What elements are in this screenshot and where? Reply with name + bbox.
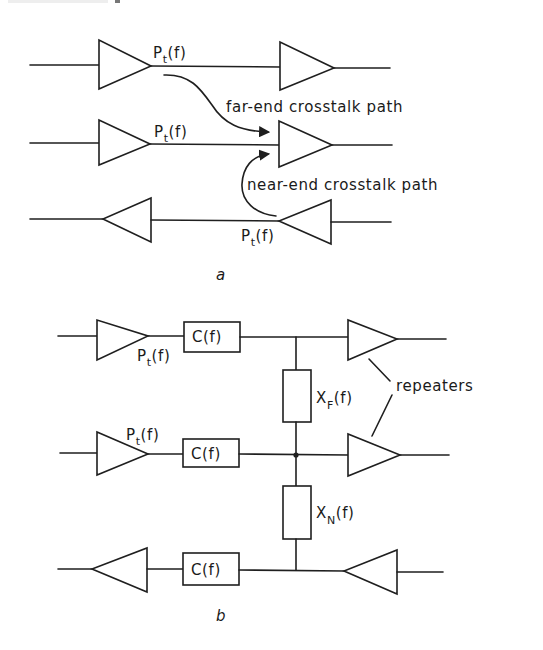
crosstalk-diagram: Pt(f) Pt(f) Pt(f) far-end c (0, 0, 543, 650)
amplifier-left-icon (279, 200, 331, 244)
panel-b-line-1: C(f) Pt(f) (58, 320, 446, 369)
repeaters-label: repeaters (396, 377, 474, 395)
far-end-coupling-label: XF(f) (316, 389, 353, 412)
repeater-right-icon (348, 434, 400, 476)
far-end-coupling-impedance (283, 370, 311, 422)
amplifier-right-icon (99, 40, 151, 89)
panel-a: Pt(f) Pt(f) Pt(f) far-end c (30, 40, 438, 284)
junction-dot (293, 452, 298, 457)
repeaters-annotation: repeaters (369, 359, 474, 436)
signal-label-pt: Pt(f) (154, 123, 187, 145)
wire (151, 220, 279, 221)
signal-label-pt: Pt(f) (153, 44, 186, 66)
near-end-coupling-impedance (283, 486, 311, 539)
panel-b: C(f) Pt(f) C(f) Pt(f) (58, 320, 474, 625)
panel-a-line-2: Pt(f) (30, 120, 392, 167)
panel-a-line-3: Pt(f) (30, 198, 391, 249)
leader-line (372, 395, 392, 436)
wire (239, 570, 344, 571)
near-end-coupling-label: XN(f) (316, 504, 355, 527)
signal-label-pt: Pt(f) (126, 426, 159, 448)
amplifier-left-icon (92, 548, 147, 592)
wire (150, 144, 279, 145)
amplifier-right-icon (99, 120, 150, 165)
panel-b-line-2: C(f) Pt(f) (60, 426, 449, 476)
coupling-network: XF(f) XN(f) (283, 337, 355, 570)
far-end-crosstalk-label: far-end crosstalk path (226, 98, 403, 116)
amplifier-left-icon (103, 198, 151, 242)
signal-label-pt: Pt(f) (241, 227, 274, 249)
amplifier-left-icon (344, 550, 397, 594)
repeater-right-icon (348, 320, 397, 360)
repeater-right-icon (279, 121, 332, 167)
channel-box-label: C(f) (191, 445, 221, 463)
panel-a-line-1: Pt(f) (30, 40, 390, 90)
panel-a-caption: a (216, 266, 225, 284)
signal-label-pt: Pt(f) (137, 347, 170, 369)
panel-b-caption: b (216, 607, 226, 625)
near-end-crosstalk-label: near-end crosstalk path (247, 176, 438, 194)
channel-box-label: C(f) (192, 328, 222, 346)
wire (151, 66, 280, 67)
channel-box-label: C(f) (191, 561, 221, 579)
leader-line (369, 359, 390, 381)
panel-b-line-3: C(f) (58, 548, 443, 594)
repeater-right-icon (280, 42, 334, 90)
